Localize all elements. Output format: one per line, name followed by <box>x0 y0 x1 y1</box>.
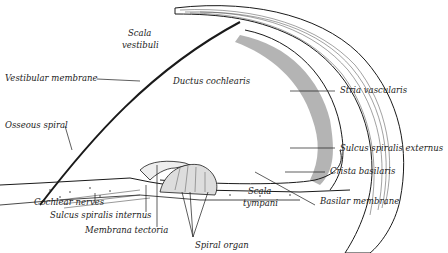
label-osseous-spiral: Osseous spiral <box>5 120 68 130</box>
label-crista-basilaris: Crista basilaris <box>330 166 395 176</box>
label-scala-tympani-line2: tympani <box>243 198 278 208</box>
label-stria-vascularis: Stria vascularis <box>340 85 407 95</box>
cochlear-duct-diagram: Scala vestibuli Vestibular membrane Duct… <box>0 0 448 253</box>
label-scala-vestibuli-line1: Scala <box>128 28 151 38</box>
label-sulcus-spiralis-externus: Sulcus spiralis externus <box>340 143 443 153</box>
label-spiral-organ: Spiral organ <box>195 240 249 250</box>
label-scala-tympani-line1: Scala <box>248 186 271 196</box>
label-cochlear-nerves: Cochlear nerves <box>34 197 104 207</box>
label-membrana-tectoria: Membrana tectoria <box>85 225 168 235</box>
label-sulcus-spiralis-internus: Sulcus spiralis internus <box>50 210 151 220</box>
label-basilar-membrane: Basilar membrane <box>320 196 399 206</box>
label-vestibular-membrane: Vestibular membrane <box>5 73 98 83</box>
label-ductus-cochlearis: Ductus cochlearis <box>173 76 250 86</box>
label-scala-vestibuli-line2: vestibuli <box>122 40 159 50</box>
